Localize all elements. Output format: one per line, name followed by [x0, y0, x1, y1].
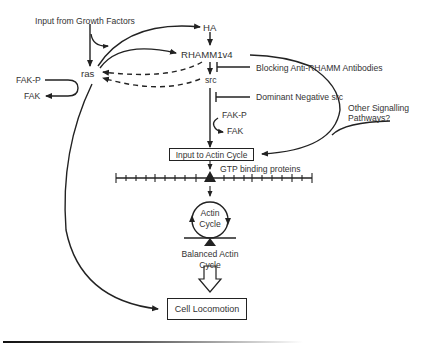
box-cell-locomotion: Cell Locomotion — [167, 298, 247, 320]
box-input-to-actin-cycle: Input to Actin Cycle — [169, 148, 254, 161]
label-input-to-actin-cycle: Input to Actin Cycle — [176, 150, 248, 160]
node-rhamm: RHAMM1v4 — [181, 50, 233, 60]
label-balanced-line2: Cycle — [170, 261, 250, 270]
arrow-ras-to-ha — [98, 26, 200, 66]
dashed-src-to-ras — [103, 78, 200, 87]
label-dominant-negative-src: Dominant Negative src — [256, 93, 343, 102]
label-balanced-line1: Balanced Actin — [170, 250, 250, 259]
label-cell-locomotion: Cell Locomotion — [175, 304, 240, 314]
node-ha: HA — [203, 23, 216, 33]
label-other-pathways-line1: Other Signalling — [348, 104, 409, 113]
actin-cycle-arrow-right — [225, 218, 231, 225]
bottom-rule — [3, 341, 303, 343]
dashed-rhamm-to-ras — [103, 62, 202, 74]
node-fak-p-right: FAK-P — [222, 111, 247, 120]
arrow-other-pathways — [332, 121, 390, 135]
label-actin-cycle-line1: Actin — [196, 209, 224, 218]
label-gtp-binding-proteins: GTP binding proteins — [220, 165, 301, 174]
actin-cycle-arrow-left — [189, 215, 195, 222]
node-src: src — [205, 76, 216, 85]
arrow-ras-to-rhamm — [100, 49, 176, 68]
arrow-fakp-to-fak-left — [45, 80, 78, 96]
label-actin-cycle-line2: Cycle — [196, 220, 224, 229]
balance-fulcrum-triangle — [204, 238, 216, 246]
label-blocking-antibodies: Blocking Anti-RHAMM Antibodies — [256, 64, 383, 73]
arrow-fakp-to-fak-right — [214, 118, 219, 126]
node-fak-right: FAK — [227, 127, 243, 136]
ruler-fulcrum-triangle — [204, 171, 216, 182]
arrow-ras-to-locomotion — [65, 84, 158, 309]
label-growth-factors: Input from Growth Factors — [35, 17, 135, 26]
node-fak-p-left: FAK-P — [16, 76, 41, 85]
node-ras: ras — [81, 69, 94, 79]
arrow-growth-branch — [91, 34, 108, 46]
node-fak-left: FAK — [24, 92, 40, 101]
label-other-pathways-line2: Pathways? — [348, 114, 390, 123]
